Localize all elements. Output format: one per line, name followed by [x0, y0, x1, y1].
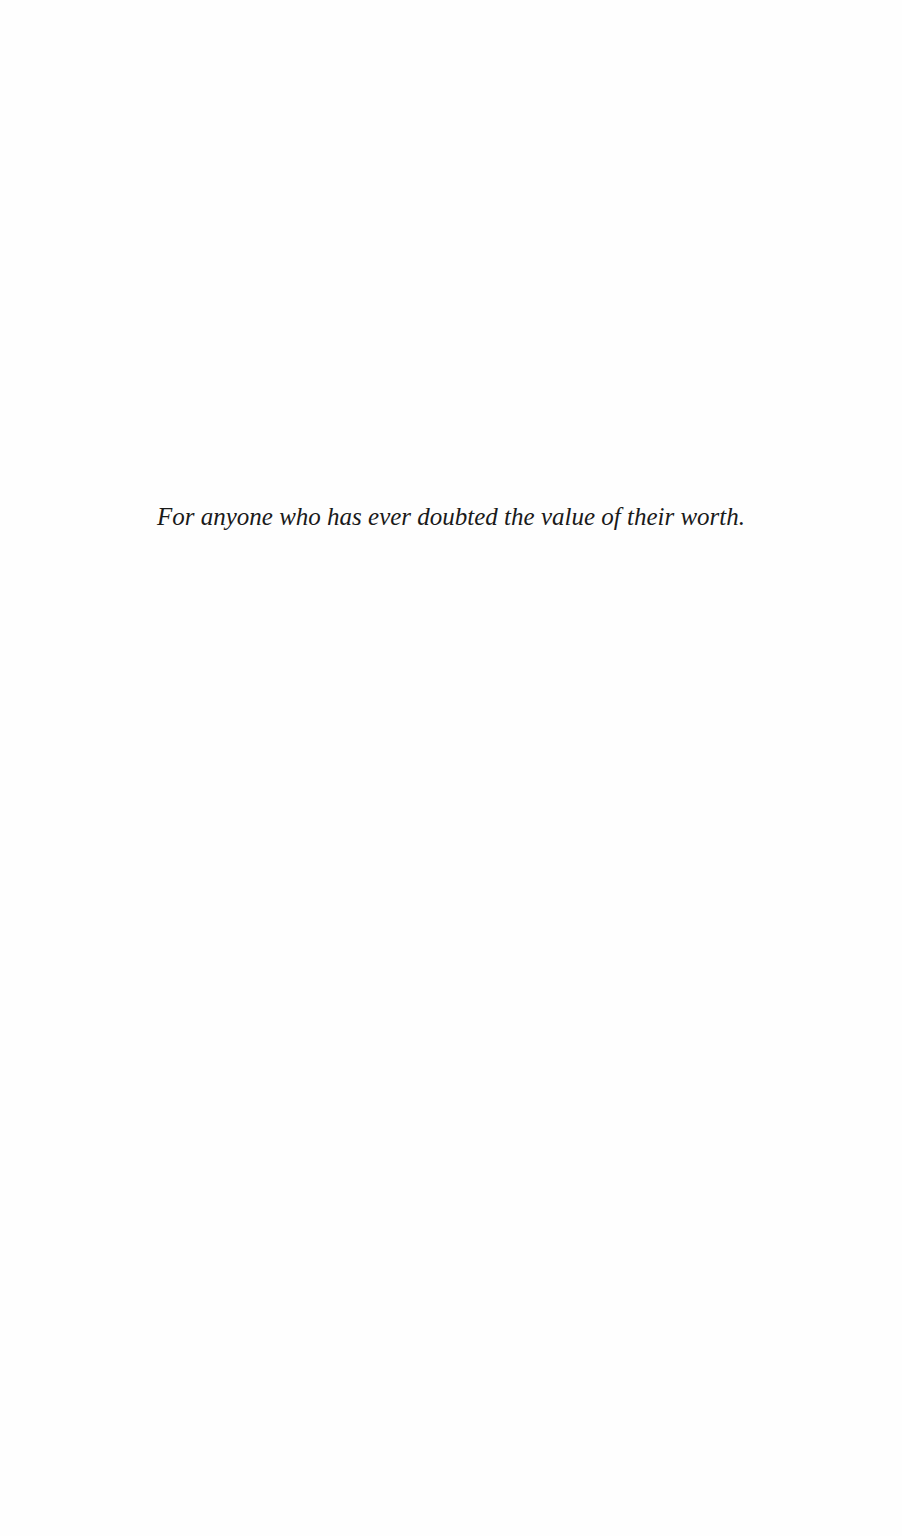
book-page: For anyone who has ever doubted the valu…	[0, 0, 902, 1536]
dedication-text: For anyone who has ever doubted the valu…	[0, 499, 902, 535]
